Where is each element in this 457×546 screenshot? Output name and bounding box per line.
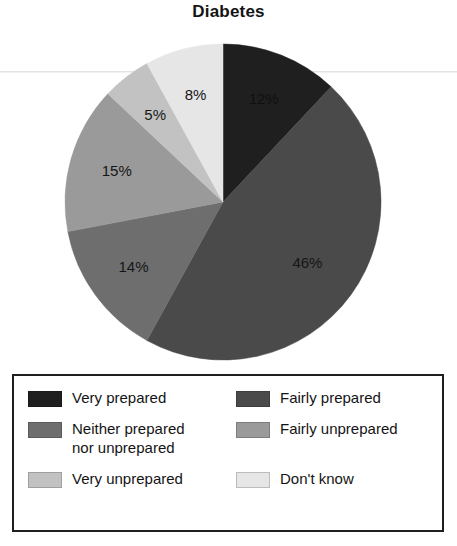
pie-slice-value-label: 14% <box>118 258 148 275</box>
legend-swatch-icon-very-unprepared <box>28 472 62 488</box>
legend-label-neither-prepared-nor-unprepared: Neither prepared nor unprepared <box>72 419 185 457</box>
legend-label-dont-know: Don't know <box>280 469 354 488</box>
legend-swatch-icon-neither-prepared-nor-unprepared <box>28 422 62 438</box>
chart-title: Diabetes <box>0 2 457 22</box>
pie-slice-value-label: 46% <box>292 254 322 271</box>
legend-swatch-icon-very-prepared <box>28 391 62 407</box>
legend-item-fairly-unprepared[interactable]: Fairly unprepared <box>236 419 432 457</box>
legend-items-grid: Very prepared Fairly prepared Neither pr… <box>14 376 442 530</box>
legend-swatch-icon-fairly-unprepared <box>236 422 270 438</box>
chart-legend: Very prepared Fairly prepared Neither pr… <box>12 374 444 532</box>
pie-slice-group <box>65 44 381 360</box>
pie-chart-figure: Diabetes 12%46%14%15%5%8% Very prepared … <box>0 0 457 546</box>
pie-slice-value-label: 15% <box>102 162 132 179</box>
legend-item-dont-know[interactable]: Don't know <box>236 469 432 488</box>
legend-label-fairly-prepared: Fairly prepared <box>280 388 381 407</box>
legend-item-neither-prepared-nor-unprepared[interactable]: Neither prepared nor unprepared <box>28 419 236 457</box>
pie-svg: 12%46%14%15%5%8% <box>64 43 382 361</box>
legend-label-very-unprepared: Very unprepared <box>72 469 183 488</box>
pie-slice-value-label: 12% <box>249 90 279 107</box>
legend-label-very-prepared: Very prepared <box>72 388 166 407</box>
legend-item-very-unprepared[interactable]: Very unprepared <box>28 469 236 488</box>
legend-swatch-icon-fairly-prepared <box>236 391 270 407</box>
legend-item-very-prepared[interactable]: Very prepared <box>28 388 236 407</box>
pie-plot-area: 12%46%14%15%5%8% <box>64 43 382 361</box>
legend-label-fairly-unprepared: Fairly unprepared <box>280 419 398 438</box>
legend-swatch-icon-dont-know <box>236 472 270 488</box>
pie-slice-value-label: 8% <box>185 86 207 103</box>
legend-item-fairly-prepared[interactable]: Fairly prepared <box>236 388 432 407</box>
pie-slice-value-label: 5% <box>144 106 166 123</box>
